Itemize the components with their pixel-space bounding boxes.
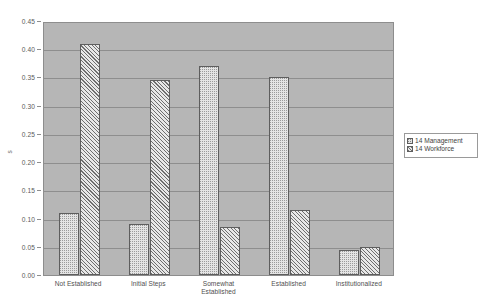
y-axis-tick-labels: 0.000.050.100.150.200.250.300.350.400.45 [0, 22, 41, 276]
x-tick-label: Institutionalized [324, 280, 394, 288]
bar [360, 247, 380, 275]
chart-figure: s 0.000.050.100.150.200.250.300.350.400.… [0, 0, 480, 305]
y-tick-mark [37, 162, 41, 163]
plot-area [43, 22, 394, 276]
y-tick-mark [37, 247, 41, 248]
y-tick-label: 0.25 [22, 131, 35, 138]
x-tick-label: Initial Steps [113, 280, 183, 288]
y-tick-mark [37, 49, 41, 50]
y-tick-label: 0.15 [22, 187, 35, 194]
legend-item[interactable]: 14 Management [407, 137, 475, 145]
legend-item[interactable]: 14 Workforce [407, 145, 475, 153]
y-tick-mark [37, 21, 41, 22]
y-tick-label: 0.20 [22, 159, 35, 166]
y-tick-label: 0.05 [22, 244, 35, 251]
y-tick-label: 0.35 [22, 74, 35, 81]
x-tick-label: Not Established [43, 280, 113, 288]
bar [150, 80, 170, 275]
bar [290, 210, 310, 275]
bar [59, 213, 79, 275]
bar [269, 77, 289, 275]
bar [80, 44, 100, 275]
hatched-square-icon [407, 146, 413, 152]
legend-item-label: 14 Management [415, 137, 463, 145]
x-axis-tick-labels: Not EstablishedInitial StepsSomewhat Est… [43, 280, 394, 305]
bar [220, 227, 240, 275]
y-tick-label: 0.00 [22, 272, 35, 279]
y-tick-label: 0.30 [22, 103, 35, 110]
gridline [44, 22, 393, 23]
bar [199, 66, 219, 275]
y-tick-mark [37, 275, 41, 276]
y-tick-mark [37, 77, 41, 78]
y-tick-label: 0.40 [22, 46, 35, 53]
chart-legend: 14 Management14 Workforce [404, 133, 478, 158]
y-tick-mark [37, 134, 41, 135]
y-tick-mark [37, 106, 41, 107]
bar [339, 250, 359, 275]
x-tick-label: Established [254, 280, 324, 288]
dotted-square-icon [407, 138, 413, 144]
y-tick-label: 0.45 [22, 18, 35, 25]
chart-title [80, 0, 380, 2]
bar [129, 224, 149, 275]
y-tick-mark [37, 219, 41, 220]
y-tick-label: 0.10 [22, 216, 35, 223]
legend-item-label: 14 Workforce [415, 145, 454, 153]
x-tick-label: Somewhat Established [183, 280, 253, 296]
y-tick-mark [37, 190, 41, 191]
